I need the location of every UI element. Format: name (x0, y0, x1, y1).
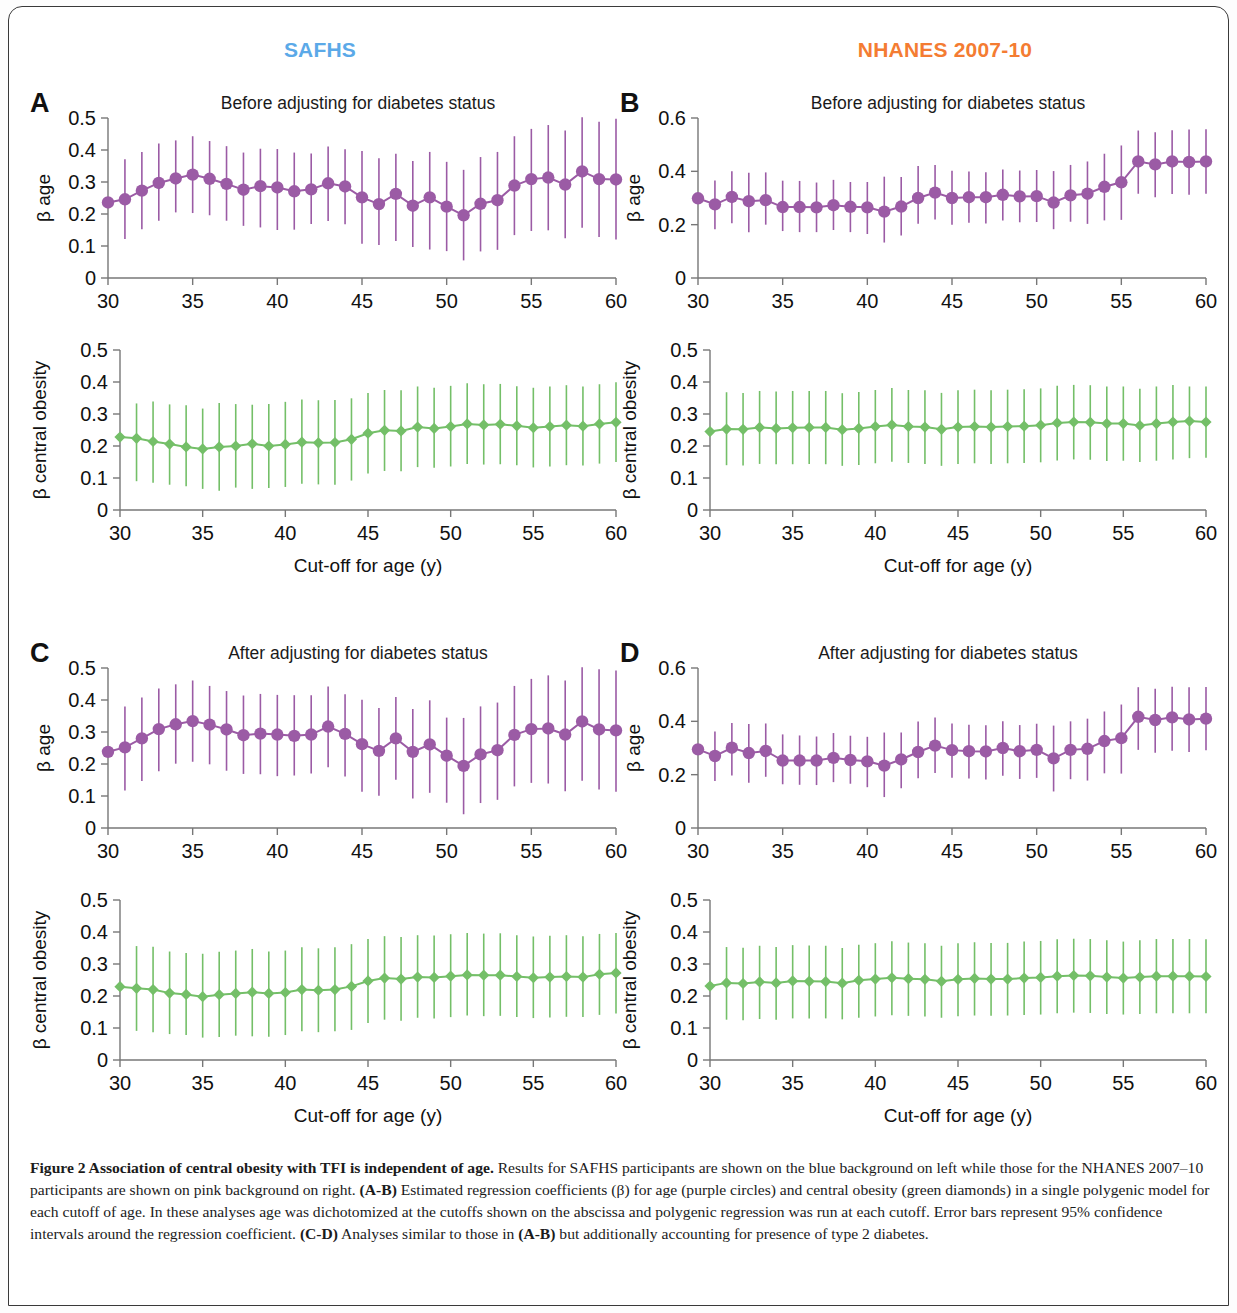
data-point (903, 973, 914, 984)
y-axis-title: β central obesity (619, 910, 640, 1049)
data-point (220, 723, 232, 735)
y-tick-label: 0 (687, 1049, 698, 1071)
x-tick-label: 55 (522, 1072, 544, 1094)
data-point (542, 171, 554, 183)
data-point (594, 418, 605, 429)
data-point (197, 443, 208, 454)
data-point (793, 201, 805, 213)
data-point (760, 194, 772, 206)
x-tick-label: 35 (192, 522, 214, 544)
data-point (1118, 418, 1129, 429)
data-point (254, 727, 266, 739)
x-axis-title: Cut-off for age (y) (294, 555, 443, 576)
y-tick-label: 0.5 (80, 889, 108, 911)
y-tick-label: 0 (85, 267, 96, 289)
panel-d: D After adjusting for diabetes status 00… (618, 638, 1218, 1132)
data-point (853, 975, 864, 986)
data-point (878, 205, 890, 217)
data-point (1101, 418, 1112, 429)
x-axis-title: Cut-off for age (y) (884, 555, 1033, 576)
data-point (919, 422, 930, 433)
y-tick-label: 0 (687, 499, 698, 521)
data-point (743, 747, 755, 759)
data-point (1035, 972, 1046, 983)
y-tick-label: 0.1 (68, 785, 96, 807)
y-tick-label: 0.1 (68, 235, 96, 257)
chart-b-obesity: 00.10.20.30.40.530354045505560β central … (618, 320, 1218, 582)
data-point (296, 984, 307, 995)
data-point (1002, 421, 1013, 432)
data-point (1200, 712, 1212, 724)
data-point (1184, 971, 1195, 982)
y-tick-label: 0.3 (80, 953, 108, 975)
data-point (810, 201, 822, 213)
data-point (478, 970, 489, 981)
chart-c-age: 00.10.20.30.40.530354045505560β age (28, 638, 628, 870)
data-point (737, 978, 748, 989)
data-point (119, 741, 131, 753)
data-point (329, 984, 340, 995)
x-tick-label: 55 (1110, 840, 1132, 862)
data-point (1098, 735, 1110, 747)
data-point (491, 194, 503, 206)
data-point (491, 744, 503, 756)
y-tick-label: 0 (85, 817, 96, 839)
x-tick-label: 30 (699, 1072, 721, 1094)
data-point (721, 977, 732, 988)
data-point (820, 976, 831, 987)
x-tick-label: 40 (856, 840, 878, 862)
data-point (985, 422, 996, 433)
data-point (1184, 415, 1195, 426)
data-point (844, 201, 856, 213)
data-point (561, 971, 572, 982)
data-point (593, 723, 605, 735)
data-point (1002, 973, 1013, 984)
data-point (886, 972, 897, 983)
y-axis-title: β central obesity (29, 360, 50, 499)
y-tick-label: 0.1 (670, 467, 698, 489)
data-point (263, 988, 274, 999)
y-tick-label: 0 (675, 817, 686, 839)
data-point (704, 980, 715, 991)
x-tick-label: 30 (97, 290, 119, 312)
y-axis-title: β age (33, 174, 54, 222)
figure-caption: Figure 2 Association of central obesity … (30, 1157, 1210, 1246)
data-point (170, 172, 182, 184)
data-point (528, 972, 539, 983)
caption-body-3: Analyses similar to those in (338, 1225, 518, 1242)
panel-c: C After adjusting for diabetes status 00… (28, 638, 628, 1132)
data-point (827, 199, 839, 211)
x-tick-label: 55 (522, 522, 544, 544)
data-point (412, 972, 423, 983)
data-point (760, 745, 772, 757)
data-point (329, 437, 340, 448)
y-tick-label: 0.1 (80, 1017, 108, 1039)
data-point (903, 421, 914, 432)
data-point (754, 976, 765, 987)
y-tick-label: 0.5 (68, 107, 96, 129)
data-point (181, 989, 192, 1000)
data-point (170, 718, 182, 730)
data-point (220, 178, 232, 190)
data-point (1167, 971, 1178, 982)
x-axis-title: Cut-off for age (y) (884, 1105, 1033, 1126)
caption-body-4: but additionally accounting for presence… (555, 1225, 928, 1242)
data-point (594, 969, 605, 980)
panel-b: B Before adjusting for diabetes status 0… (618, 88, 1218, 582)
x-tick-label: 55 (1112, 1072, 1134, 1094)
column-header-nhanes: NHANES 2007-10 (820, 38, 1070, 62)
x-tick-label: 40 (864, 522, 886, 544)
data-point (280, 987, 291, 998)
x-tick-label: 50 (1026, 290, 1048, 312)
panel-title-b: Before adjusting for diabetes status (768, 93, 1128, 114)
x-tick-label: 40 (856, 290, 878, 312)
data-point (1064, 189, 1076, 201)
x-tick-label: 50 (440, 522, 462, 544)
data-point (704, 426, 715, 437)
data-point (263, 440, 274, 451)
data-point (985, 973, 996, 984)
x-tick-label: 40 (274, 1072, 296, 1094)
data-point (214, 441, 225, 452)
data-point (709, 750, 721, 762)
x-tick-label: 40 (274, 522, 296, 544)
